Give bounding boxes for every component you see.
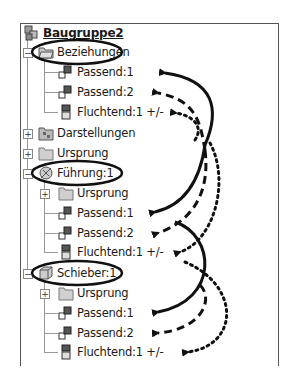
collapse-toggle[interactable]: − — [23, 269, 33, 279]
tree-root-baugruppe2[interactable]: Baugruppe2 — [24, 24, 124, 42]
tree-item-ursprung[interactable]: Ursprung — [38, 144, 108, 162]
origin-folder-icon — [38, 145, 54, 161]
tree-item-label: Fluchtend:1 +/- — [77, 105, 163, 119]
tree-line — [44, 252, 58, 253]
expand-toggle[interactable]: + — [23, 149, 33, 159]
tree-item-passend-1[interactable]: Passend:1 — [58, 304, 134, 322]
mate-constraint-icon — [58, 84, 74, 100]
mate-constraint-icon — [58, 225, 74, 241]
part-cube-icon — [38, 265, 54, 281]
origin-folder-icon — [58, 185, 74, 201]
expand-toggle[interactable]: + — [40, 189, 50, 199]
representations-icon — [38, 125, 54, 141]
collapse-toggle[interactable]: − — [23, 169, 33, 179]
tree-item-schieber-1[interactable]: Schieber:1 — [38, 264, 116, 282]
mate-constraint-icon — [58, 64, 74, 80]
expand-toggle[interactable]: + — [40, 289, 50, 299]
tree-item-label: Baugruppe2 — [43, 26, 124, 40]
flush-constraint-icon — [58, 244, 74, 260]
tree-item-passend-2[interactable]: Passend:2 — [58, 224, 134, 242]
flush-constraint-icon — [58, 104, 74, 120]
tree-line — [44, 333, 58, 334]
tree-item-label: Ursprung — [77, 186, 128, 200]
tree-item-label: Passend:1 — [77, 206, 134, 220]
tree-item-label: Passend:2 — [77, 326, 134, 340]
tree-item-fluchtend-1[interactable]: Fluchtend:1 +/- — [58, 243, 163, 261]
tree-item-label: Passend:2 — [77, 85, 134, 99]
tree-line — [44, 72, 58, 73]
collapse-toggle[interactable]: − — [23, 48, 33, 58]
tree-item-passend-1[interactable]: Passend:1 — [58, 204, 134, 222]
tree-line — [44, 213, 58, 214]
tree-line — [44, 60, 45, 113]
tree-item-label: Ursprung — [57, 146, 108, 160]
tree-item-passend-2[interactable]: Passend:2 — [58, 83, 134, 101]
tree-item-fluchtend-1[interactable]: Fluchtend:1 +/- — [58, 343, 163, 361]
expand-toggle[interactable]: + — [23, 129, 33, 139]
flush-constraint-icon — [58, 344, 74, 360]
tree-item-fuehrung-1[interactable]: Führung:1 — [38, 164, 114, 182]
tree-item-label: Darstellungen — [57, 126, 135, 140]
tree-item-label: Fluchtend:1 +/- — [77, 345, 163, 359]
tree-line — [44, 352, 58, 353]
tree-item-darstellungen[interactable]: Darstellungen — [38, 124, 135, 142]
tree-item-beziehungen[interactable]: Beziehungen — [38, 43, 130, 61]
origin-folder-icon — [58, 285, 74, 301]
mate-constraint-icon — [58, 205, 74, 221]
tree-item-label: Fluchtend:1 +/- — [77, 245, 163, 259]
tree-item-passend-2[interactable]: Passend:2 — [58, 324, 134, 342]
assembly-icon — [24, 25, 40, 41]
tree-line — [44, 92, 58, 93]
folder-relations-icon — [38, 44, 54, 60]
tree-item-ursprung[interactable]: Ursprung — [58, 284, 128, 302]
tree-item-passend-1[interactable]: Passend:1 — [58, 63, 134, 81]
tree-item-fluchtend-1[interactable]: Fluchtend:1 +/- — [58, 103, 163, 121]
tree-item-label: Beziehungen — [57, 45, 130, 59]
tree-item-ursprung[interactable]: Ursprung — [58, 184, 128, 202]
tree-line — [44, 233, 58, 234]
tree-line — [44, 112, 58, 113]
tree-item-label: Ursprung — [77, 286, 128, 300]
tree-item-label: Passend:2 — [77, 226, 134, 240]
tree-item-label: Führung:1 — [57, 166, 114, 180]
tree-item-label: Passend:1 — [77, 306, 134, 320]
tree-item-label: Passend:1 — [77, 65, 134, 79]
tree-item-label: Schieber:1 — [57, 266, 116, 280]
mate-constraint-icon — [58, 305, 74, 321]
tree-line — [44, 313, 58, 314]
part-icon — [38, 165, 54, 181]
mate-constraint-icon — [58, 325, 74, 341]
